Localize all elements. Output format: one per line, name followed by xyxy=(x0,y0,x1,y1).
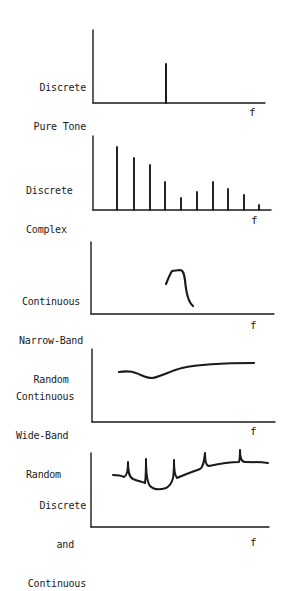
discrete-continuous-curve xyxy=(113,450,268,489)
harmonic-lines xyxy=(117,147,259,210)
panel-narrow-band-plot xyxy=(91,242,274,314)
label-line: Pure Tone xyxy=(0,120,86,133)
label-line: Narrow-Band xyxy=(14,334,88,347)
panel-label-discrete-pure-tone: Discrete Pure Tone xyxy=(0,55,86,146)
axis-label-f: f xyxy=(250,426,257,438)
label-line: Wide-Band xyxy=(16,429,82,442)
panel-wide-band-plot xyxy=(92,349,275,422)
label-line: Complex xyxy=(26,223,106,236)
panel-label-discrete-and-continuous: Discrete and Continuous xyxy=(20,473,86,591)
panel-discrete-continuous-plot xyxy=(91,450,269,527)
label-line: Discrete xyxy=(0,81,86,94)
panel-label-discrete-complex: Discrete Complex xyxy=(0,158,106,249)
label-line: Continuous xyxy=(20,577,86,590)
label-line: Discrete xyxy=(20,499,86,512)
label-line: Continuous xyxy=(14,295,88,308)
narrow-band-curve xyxy=(166,270,193,306)
axis-label-f: f xyxy=(250,537,257,549)
label-line: Discrete xyxy=(26,184,106,197)
wide-band-curve xyxy=(119,363,254,378)
panel-discrete-complex-plot xyxy=(93,136,271,210)
axis-label-f: f xyxy=(249,107,256,119)
panel-discrete-pure-tone-plot xyxy=(93,30,265,103)
axis-label-f: f xyxy=(250,320,257,332)
axis-label-f: f xyxy=(251,215,258,227)
label-line: Continuous xyxy=(16,390,82,403)
label-line: and xyxy=(20,538,86,551)
